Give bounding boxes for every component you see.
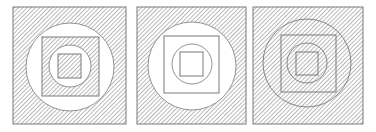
outer-square bbox=[253, 7, 363, 124]
panel-1 bbox=[13, 7, 126, 124]
panel-2 bbox=[137, 7, 246, 124]
nested-shapes-figure bbox=[0, 0, 376, 132]
inner-square bbox=[58, 54, 81, 78]
panel-3 bbox=[253, 7, 363, 124]
inner-square bbox=[180, 52, 203, 76]
